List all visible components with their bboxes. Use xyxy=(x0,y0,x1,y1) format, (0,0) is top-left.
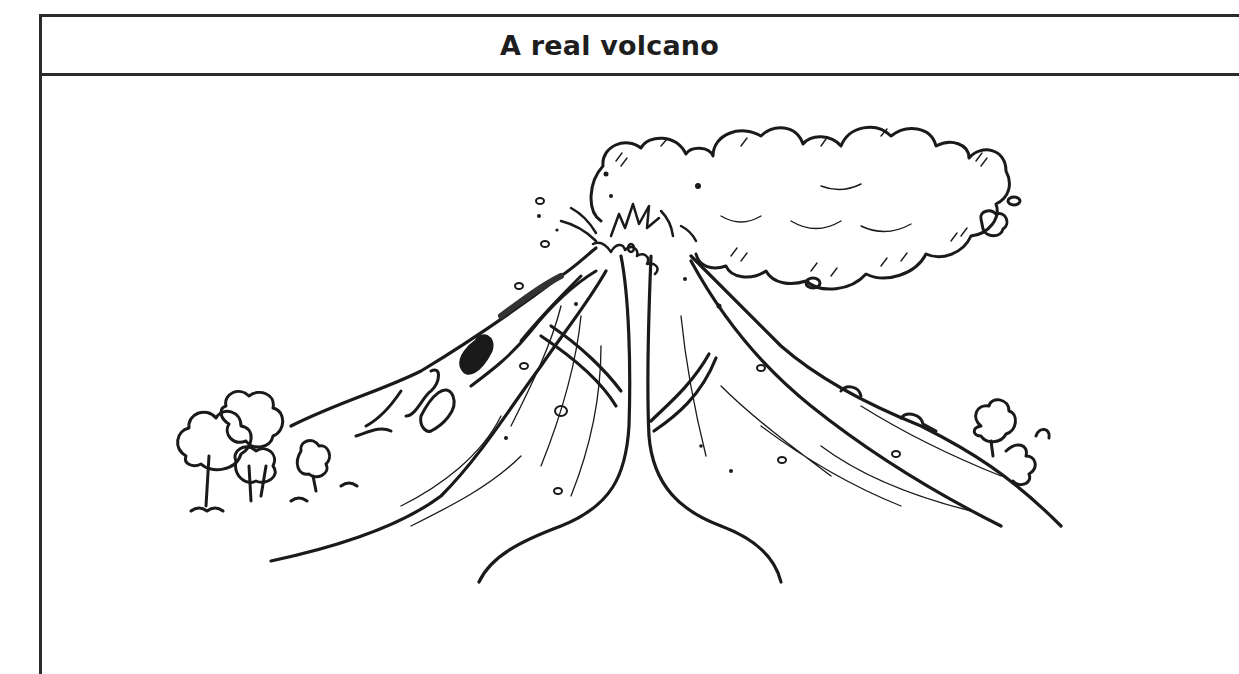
eruption-icon xyxy=(561,204,696,274)
volcano-illustration xyxy=(0,0,1179,646)
trees-right-icon xyxy=(841,387,1049,485)
volcano-slopes-icon xyxy=(271,248,1061,582)
cloud-hatching xyxy=(616,129,987,276)
